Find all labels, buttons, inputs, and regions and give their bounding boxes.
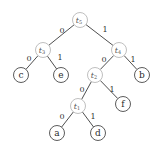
node-label: e [58, 70, 63, 80]
node-a: a [50, 126, 65, 141]
edge-label-t3-e: 1 [57, 53, 62, 62]
node-label: c [18, 70, 23, 80]
node-c: c [14, 68, 29, 83]
edge-t5-t4 [86, 25, 113, 46]
edge-t3-e [47, 56, 56, 69]
node-t2: t2 [88, 68, 103, 83]
node-d: d [91, 126, 106, 141]
node-t3: t3 [36, 43, 51, 58]
edge-label-t3-c: 0 [26, 54, 31, 63]
edge-label-t5-t4: 1 [102, 25, 107, 34]
edge-label-t4-b: 1 [130, 55, 135, 64]
edge-label-t2-f: 1 [109, 85, 114, 94]
node-t5: t5 [73, 13, 88, 28]
edge-label-t1-a: 0 [59, 112, 64, 121]
node-label: b [139, 70, 145, 80]
edge-label-t2-t1: 0 [79, 85, 84, 94]
edge-label-t5-t3: 0 [59, 26, 64, 35]
node-e: e [54, 68, 69, 83]
node-label: d [95, 128, 101, 138]
binary-tree-diagram: 0101010101 t5t3t4cet2bt1fad [0, 0, 159, 152]
tree-nodes: t5t3t4cet2bt1fad [14, 13, 150, 141]
edge-label-t1-d: 1 [90, 112, 95, 121]
node-b: b [135, 68, 150, 83]
node-f: f [116, 97, 131, 112]
node-label: a [54, 128, 60, 138]
node-t4: t4 [112, 43, 127, 58]
node-t1: t1 [71, 99, 86, 114]
edge-label-t4-t2: 0 [101, 55, 106, 64]
